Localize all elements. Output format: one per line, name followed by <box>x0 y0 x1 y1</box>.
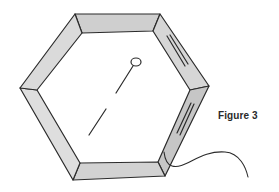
needle-shaft-lower <box>89 109 106 135</box>
figure-caption: Figure 3 <box>218 110 258 121</box>
figure-diagram: Figure 3 <box>0 0 279 192</box>
frame-segment-top <box>75 14 160 33</box>
frame-segment-bottom <box>73 162 165 180</box>
frame-segment-upper-left <box>20 14 82 90</box>
frame-segment-lower-left <box>20 88 80 180</box>
thread <box>164 152 248 177</box>
needle-eye-icon <box>131 58 141 66</box>
needle-shaft-upper <box>116 66 133 93</box>
hexagon-frame-illustration <box>0 0 279 192</box>
frame-segment-lower-right <box>158 86 209 176</box>
